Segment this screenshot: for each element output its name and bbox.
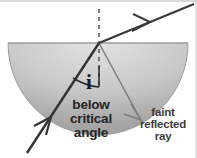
below-critical-angle-line-3: angle: [58, 126, 124, 140]
below-critical-angle-label: below critical angle: [58, 98, 124, 139]
below-critical-angle-line-2: critical: [58, 112, 124, 126]
faint-reflected-ray-line-1: faint: [132, 106, 194, 118]
faint-reflected-ray-line-2: reflected: [132, 118, 194, 130]
faint-reflected-ray-label: faint reflected ray: [132, 106, 194, 142]
angle-of-incidence-label: i: [86, 72, 92, 93]
optics-refraction-figure: i below critical angle faint reflected r…: [0, 0, 197, 158]
below-critical-angle-line-1: below: [58, 98, 124, 112]
faint-reflected-ray-line-3: ray: [132, 130, 194, 142]
